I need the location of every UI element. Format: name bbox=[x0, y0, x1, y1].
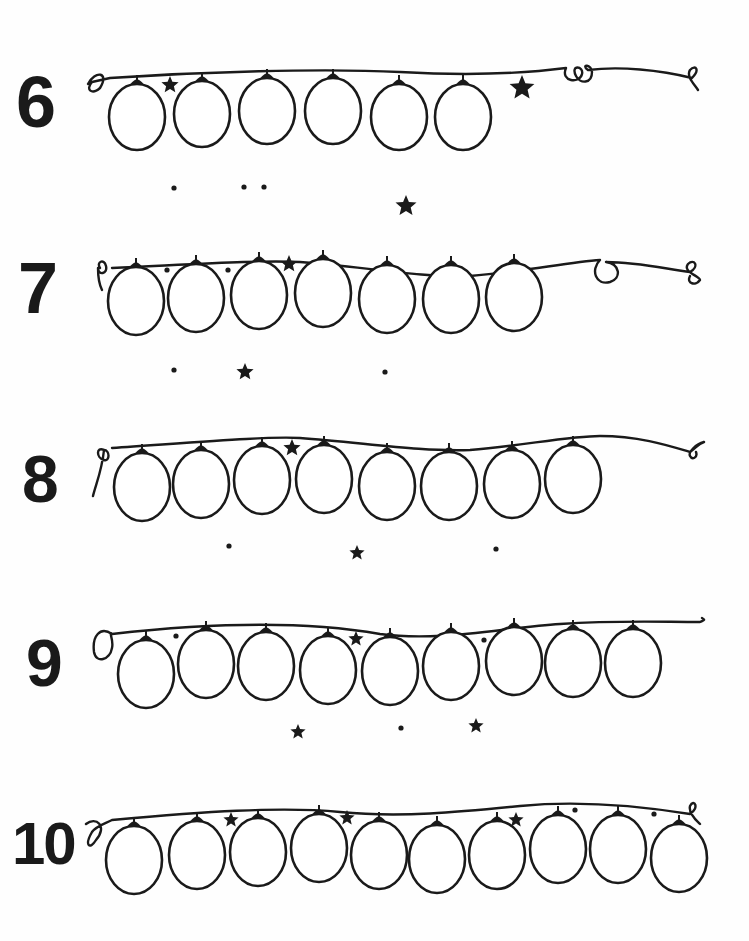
bulb-ornament-icon[interactable] bbox=[590, 806, 646, 883]
bulb-ornament-icon[interactable] bbox=[530, 806, 586, 883]
star-icon bbox=[223, 812, 238, 827]
bulb-ornament-icon[interactable] bbox=[409, 816, 465, 893]
dot-decoration bbox=[572, 807, 577, 812]
bulb-ornament-icon[interactable] bbox=[169, 812, 225, 889]
worksheet-page: 678910 bbox=[0, 0, 749, 941]
garland-string-10 bbox=[0, 0, 749, 941]
bulb-ornament-icon[interactable] bbox=[291, 805, 347, 882]
bulb-ornament-icon[interactable] bbox=[351, 812, 407, 889]
bulb-ornament-icon[interactable] bbox=[651, 815, 707, 892]
dot-decoration bbox=[651, 811, 656, 816]
bulb-ornament-icon[interactable] bbox=[106, 817, 162, 894]
bulb-ornament-icon[interactable] bbox=[230, 809, 286, 886]
